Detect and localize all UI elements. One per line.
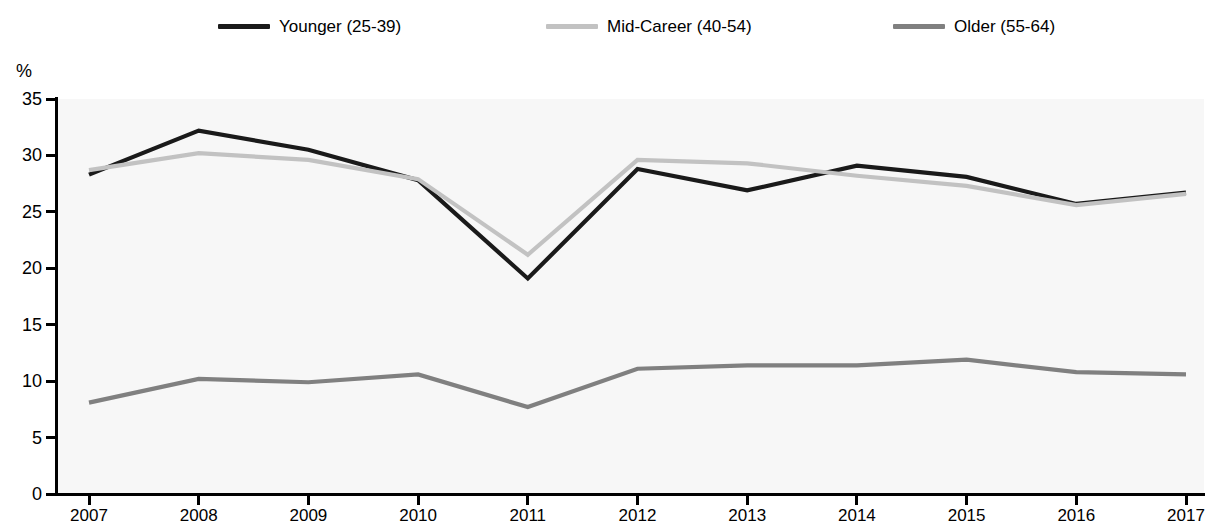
x-tick-label: 2009 bbox=[263, 507, 353, 525]
x-tick-label: 2008 bbox=[154, 507, 244, 525]
y-tick-mark bbox=[46, 210, 56, 213]
legend-item-mid-career[interactable]: Mid-Career (40-54) bbox=[546, 18, 752, 35]
x-tick-mark bbox=[636, 494, 639, 505]
y-tick-label: 20 bbox=[2, 259, 42, 277]
y-tick-label: 30 bbox=[2, 146, 42, 164]
legend-label-mid-career: Mid-Career (40-54) bbox=[607, 18, 752, 35]
x-tick-mark bbox=[746, 494, 749, 505]
x-tick-label: 2016 bbox=[1031, 507, 1121, 525]
x-tick-label: 2011 bbox=[483, 507, 573, 525]
x-tick-mark bbox=[417, 494, 420, 505]
x-tick-mark bbox=[307, 494, 310, 505]
x-tick-mark bbox=[197, 494, 200, 505]
x-tick-mark bbox=[526, 494, 529, 505]
line-chart: Younger (25-39) Mid-Career (40-54) Older… bbox=[0, 0, 1212, 528]
y-tick-label: 5 bbox=[2, 429, 42, 447]
y-tick-mark bbox=[46, 493, 56, 496]
legend-swatch-younger bbox=[218, 24, 270, 29]
legend-swatch-older bbox=[893, 24, 945, 29]
legend-item-older[interactable]: Older (55-64) bbox=[893, 18, 1055, 35]
chart-legend: Younger (25-39) Mid-Career (40-54) Older… bbox=[0, 18, 1212, 42]
y-tick-label: 10 bbox=[2, 372, 42, 390]
y-tick-mark bbox=[46, 154, 56, 157]
y-tick-mark bbox=[46, 380, 56, 383]
plot-lines bbox=[57, 99, 1204, 494]
y-tick-label: 15 bbox=[2, 316, 42, 334]
y-axis-unit-label: % bbox=[16, 62, 32, 80]
series-line bbox=[89, 131, 1186, 279]
x-tick-label: 2014 bbox=[812, 507, 902, 525]
x-tick-label: 2007 bbox=[44, 507, 134, 525]
legend-label-older: Older (55-64) bbox=[954, 18, 1055, 35]
y-tick-mark bbox=[46, 323, 56, 326]
y-tick-mark bbox=[46, 267, 56, 270]
x-tick-label: 2017 bbox=[1141, 507, 1212, 525]
y-tick-label: 35 bbox=[2, 90, 42, 108]
legend-swatch-mid-career bbox=[546, 24, 598, 29]
x-axis-line bbox=[55, 493, 1205, 496]
x-tick-mark bbox=[1075, 494, 1078, 505]
series-line bbox=[89, 360, 1186, 407]
plot-area bbox=[57, 99, 1204, 494]
x-tick-label: 2015 bbox=[922, 507, 1012, 525]
y-tick-mark bbox=[46, 98, 56, 101]
y-tick-mark bbox=[46, 436, 56, 439]
x-tick-mark bbox=[965, 494, 968, 505]
x-tick-mark bbox=[1185, 494, 1188, 505]
legend-item-younger[interactable]: Younger (25-39) bbox=[218, 18, 401, 35]
legend-label-younger: Younger (25-39) bbox=[279, 18, 401, 35]
x-tick-mark bbox=[88, 494, 91, 505]
y-tick-label: 0 bbox=[2, 485, 42, 503]
x-tick-label: 2010 bbox=[373, 507, 463, 525]
x-tick-mark bbox=[855, 494, 858, 505]
x-tick-label: 2012 bbox=[593, 507, 683, 525]
x-tick-label: 2013 bbox=[702, 507, 792, 525]
y-tick-label: 25 bbox=[2, 203, 42, 221]
